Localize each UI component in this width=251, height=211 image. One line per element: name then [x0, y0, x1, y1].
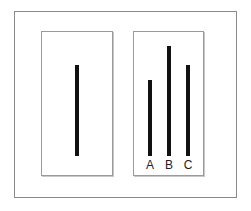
label-c: C — [182, 158, 194, 172]
comparison-line-a — [148, 80, 152, 156]
comparison-line-c — [186, 65, 190, 156]
label-b: B — [163, 158, 175, 172]
reference-line — [75, 65, 79, 156]
comparison-line-b — [167, 46, 171, 156]
label-a: A — [144, 158, 156, 172]
